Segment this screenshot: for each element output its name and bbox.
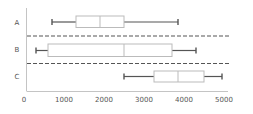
boxes-group xyxy=(36,16,222,82)
x-tick-label-1000: 1000 xyxy=(55,96,73,104)
category-label-c: C xyxy=(15,73,20,81)
box-b xyxy=(48,44,172,57)
box-plot-chart: A B C 0 1000 2000 3000 4000 5000 xyxy=(0,0,253,114)
box-c xyxy=(154,71,204,82)
x-tick-label-4000: 4000 xyxy=(175,96,193,104)
category-label-a: A xyxy=(15,19,20,27)
x-tick-label-5000: 5000 xyxy=(215,96,233,104)
x-tick-label-3000: 3000 xyxy=(135,96,153,104)
x-tick-label-0: 0 xyxy=(22,96,26,104)
x-tick-label-2000: 2000 xyxy=(95,96,113,104)
category-label-b: B xyxy=(15,46,20,54)
